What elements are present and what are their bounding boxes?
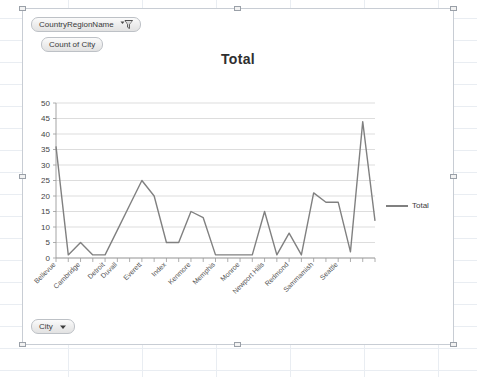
chart-x-axis-labels: BellevueCambridgeDetroitDuvallEverettInd…	[33, 260, 339, 295]
filter-dropdown-icon[interactable]	[120, 20, 133, 29]
resize-handle-top-right[interactable]	[450, 6, 457, 11]
svg-text:5: 5	[46, 238, 51, 247]
svg-text:45: 45	[41, 114, 50, 123]
svg-text:Kenmore: Kenmore	[167, 261, 192, 286]
svg-text:Monroe: Monroe	[219, 261, 241, 283]
pivot-field-button-country-region-name[interactable]: CountryRegionName	[31, 17, 141, 32]
svg-text:Memphis: Memphis	[191, 260, 217, 286]
resize-handle-middle-left[interactable]	[19, 174, 26, 179]
legend-label-total: Total	[412, 201, 429, 210]
resize-handle-bottom-center[interactable]	[234, 342, 241, 347]
svg-text:Cambridge: Cambridge	[52, 261, 82, 291]
chart-title: Total	[23, 51, 453, 67]
pivot-field-label-country-region-name: CountryRegionName	[39, 20, 114, 29]
svg-text:10: 10	[41, 223, 50, 232]
chart-series-total	[56, 122, 375, 255]
pivot-field-button-city[interactable]: City	[31, 319, 75, 334]
resize-handle-middle-right[interactable]	[450, 174, 457, 179]
svg-text:25: 25	[41, 176, 50, 185]
resize-handle-bottom-left[interactable]	[19, 342, 26, 347]
svg-text:15: 15	[41, 207, 50, 216]
chart-x-axis-ticks	[56, 258, 375, 262]
dropdown-icon[interactable]	[59, 323, 67, 331]
resize-handle-bottom-right[interactable]	[450, 342, 457, 347]
svg-text:35: 35	[41, 145, 50, 154]
pivot-field-label-city: City	[39, 322, 53, 331]
svg-text:Everett: Everett	[122, 261, 143, 282]
svg-text:50: 50	[41, 99, 50, 108]
resize-handle-top-left[interactable]	[19, 6, 26, 11]
pivot-field-button-count-of-city[interactable]: Count of City	[41, 37, 103, 52]
chart-gridlines	[53, 103, 375, 258]
chart-y-axis-labels: 05101520253035404550	[41, 99, 50, 263]
svg-text:40: 40	[41, 130, 50, 139]
chart-legend: Total	[386, 201, 429, 210]
legend-line-marker-total	[386, 205, 408, 207]
svg-text:Bellevue: Bellevue	[33, 261, 57, 285]
resize-handle-top-center[interactable]	[234, 6, 241, 11]
svg-text:Index: Index	[150, 260, 167, 277]
svg-text:20: 20	[41, 192, 50, 201]
pivot-field-label-count-of-city: Count of City	[49, 40, 95, 49]
pivot-chart-object[interactable]: CountryRegionName Count of City City Tot…	[22, 8, 454, 345]
svg-text:Seattle: Seattle	[319, 261, 339, 281]
svg-text:0: 0	[46, 254, 51, 263]
svg-text:30: 30	[41, 161, 50, 170]
